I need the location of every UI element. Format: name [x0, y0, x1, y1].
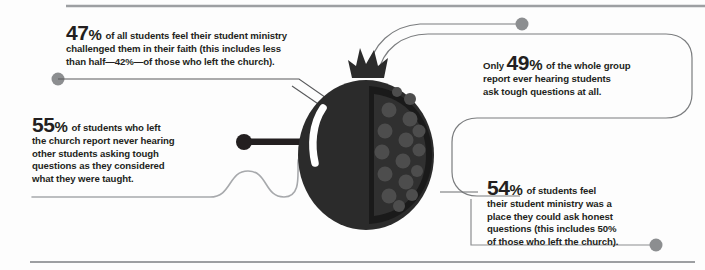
- stat-49-line2: report ever hearing students: [483, 73, 611, 84]
- stat-55-line5: what they were taught.: [32, 173, 134, 184]
- stat-55-line4: questions as they considered: [32, 160, 165, 171]
- stat-55-line1: of students who left: [69, 122, 161, 133]
- stat-49-line3: ask tough questions at all.: [483, 86, 601, 97]
- pomegranate-illustration: [298, 48, 434, 230]
- stat-54-line5: of those who left the church).: [487, 236, 618, 247]
- percent-symbol: %: [510, 181, 523, 198]
- stat-47-line3: than half—42%—of those who left the chur…: [66, 56, 275, 67]
- percent-symbol: %: [529, 56, 542, 73]
- stat-47-text: 47% of all students feel their student m…: [66, 22, 356, 68]
- stat-block-47: 47% of all students feel their student m…: [66, 22, 356, 68]
- stat-49-line1: of the whole group: [544, 60, 631, 71]
- percent-symbol: %: [55, 118, 68, 135]
- stat-55-value: 55%: [32, 113, 68, 136]
- stat-54-line4: questions (this includes 50%: [487, 223, 616, 234]
- stat-54-line3: place they could ask honest: [487, 211, 613, 222]
- stat-54-line1: of students feel: [524, 185, 596, 196]
- stat-49-text: Only 49% of the whole group report ever …: [483, 52, 683, 98]
- stat-block-49: Only 49% of the whole group report ever …: [483, 52, 683, 98]
- stat-block-54: 54% of students feel their student minis…: [487, 177, 699, 248]
- stat-49-prefix: Only: [483, 60, 507, 71]
- connector-stat-47: [52, 73, 333, 113]
- stat-55-line3: other students asking tough: [32, 148, 159, 159]
- stat-47-line1: of all students feel their student minis…: [103, 30, 287, 41]
- percent-symbol: %: [89, 26, 102, 43]
- stat-54-value: 54%: [487, 176, 523, 199]
- stat-49-value: 49%: [507, 51, 543, 74]
- stat-55-line2: the church report never hearing: [32, 135, 175, 146]
- stat-54-line2: their student ministry was a: [487, 198, 612, 209]
- infographic-page: 47% of all students feel their student m…: [0, 0, 705, 270]
- stat-47-value: 47%: [66, 21, 102, 44]
- stat-block-55: 55% of students who left the church repo…: [32, 114, 232, 185]
- stat-47-line2: challenged them in their faith (this inc…: [66, 43, 281, 54]
- stat-54-text: 54% of students feel their student minis…: [487, 177, 699, 248]
- stat-55-text: 55% of students who left the church repo…: [32, 114, 232, 185]
